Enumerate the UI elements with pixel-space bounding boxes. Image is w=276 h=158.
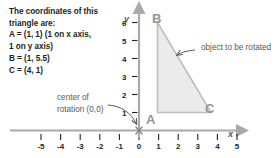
x-tick-label-1: 1 <box>156 142 160 151</box>
caption-line-6: C = (4, 1) <box>9 65 121 77</box>
center-of-rotation-label: center of rotation (0,0) <box>57 92 103 115</box>
x-tick-label-5: 5 <box>235 142 239 151</box>
x-tick-label-2: 2 <box>176 142 180 151</box>
x-tick-label-3: 3 <box>196 142 200 151</box>
object-callout-arrow <box>177 50 195 55</box>
y-tick-label-4: 4 <box>122 54 126 63</box>
vertex-label-b: B <box>152 12 161 25</box>
rotation-diagram: The coordinates of this triangle are: A … <box>0 0 276 158</box>
y-tick-label-3: 3 <box>122 72 126 81</box>
x-tick-label--4: -4 <box>57 142 64 151</box>
y-axis-ticks <box>132 23 138 113</box>
vertex-label-c: C <box>205 102 214 115</box>
caption-line-1: The coordinates of this <box>9 6 121 18</box>
triangle-abc <box>158 23 212 113</box>
x-axis-name: x <box>228 129 233 139</box>
object-to-be-rotated-label: object to be rotated <box>201 42 271 54</box>
y-tick-label-2: 2 <box>122 90 126 99</box>
caption-line-3: A = (1, 1) (1 on x axis, <box>9 29 121 41</box>
vertex-label-a: A <box>146 113 155 126</box>
caption-line-2: triangle are: <box>9 18 121 30</box>
x-tick-label--1: -1 <box>116 142 123 151</box>
x-tick-label--2: -2 <box>96 142 103 151</box>
x-tick-label--3: -3 <box>77 142 84 151</box>
x-tick-label--5: -5 <box>37 142 44 151</box>
x-axis <box>10 131 238 141</box>
center-of-rotation-line-1: center of <box>57 92 103 104</box>
caption-line-5: B = (1, 5.5) <box>9 53 121 65</box>
x-tick-label-4: 4 <box>215 142 219 151</box>
y-tick-label-6: 6 <box>122 18 126 27</box>
y-tick-label-1: 1 <box>122 108 126 117</box>
center-of-rotation-line-2: rotation (0,0) <box>57 104 103 116</box>
caption-block: The coordinates of this triangle are: A … <box>9 6 121 76</box>
x-tick-label-0: 0 <box>137 142 141 151</box>
caption-line-4: 1 on y axis) <box>9 41 121 53</box>
y-tick-label-5: 5 <box>122 36 126 45</box>
